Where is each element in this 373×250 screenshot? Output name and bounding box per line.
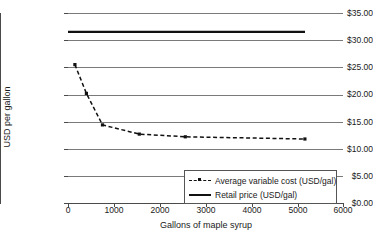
x-axis-title: Gallons of maple syrup xyxy=(68,220,344,230)
x-tick-label-4000: 4000 xyxy=(232,206,272,215)
y-tick-label-15: $15.00 xyxy=(329,118,373,126)
y-axis-title-wrap: USD per gallon xyxy=(0,50,12,190)
y-tick-mark-35 xyxy=(64,13,68,14)
y-tick-label-10: $10.00 xyxy=(329,145,373,153)
legend-label-retail-price: Retail price (USD/gal) xyxy=(215,190,297,200)
legend-item-average-variable-cost: Average variable cost (USD/gal) xyxy=(189,174,332,188)
solid-line-icon xyxy=(189,190,211,200)
y-tick-mark-30 xyxy=(64,40,68,41)
y-axis-title: USD per gallon xyxy=(2,52,12,182)
dashed-line-marker-icon xyxy=(189,176,211,186)
y-tick-mark-15 xyxy=(64,122,68,123)
x-tick-label-2000: 2000 xyxy=(140,206,180,215)
gridline-10 xyxy=(68,149,343,150)
x-tick-label-1000: 1000 xyxy=(94,206,134,215)
gridline-30 xyxy=(68,40,343,41)
chart-legend: Average variable cost (USD/gal) Retail p… xyxy=(184,170,337,204)
x-tick-label-5000: 5000 xyxy=(278,206,318,215)
y-tick-mark-25 xyxy=(64,67,68,68)
y-tick-mark-5 xyxy=(64,176,68,177)
y-tick-mark-20 xyxy=(64,95,68,96)
gridline-35 xyxy=(68,13,343,14)
y-tick-label-20: $20.00 xyxy=(329,90,373,98)
y-tick-label-30: $30.00 xyxy=(329,36,373,44)
x-tick-label-6000: 6000 xyxy=(323,206,363,215)
gridline-25 xyxy=(68,67,343,68)
y-tick-mark-10 xyxy=(64,149,68,150)
gridline-15 xyxy=(68,122,343,123)
chart-container: $35.00 $30.00 $25.00 $20.00 $15.00 $10.0… xyxy=(0,0,373,250)
legend-label-average-variable-cost: Average variable cost (USD/gal) xyxy=(215,176,336,186)
x-tick-label-3000: 3000 xyxy=(186,206,226,215)
x-tick-label-0: 0 xyxy=(48,206,88,215)
y-tick-label-25: $25.00 xyxy=(329,63,373,71)
legend-item-retail-price: Retail price (USD/gal) xyxy=(189,188,332,202)
gridline-20 xyxy=(68,95,343,96)
y-tick-label-35: $35.00 xyxy=(329,9,373,17)
